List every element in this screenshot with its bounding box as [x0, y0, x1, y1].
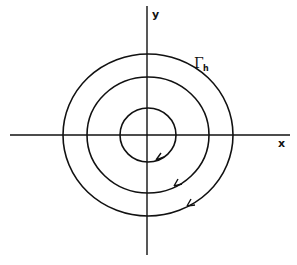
gamma-subscript: h — [203, 64, 209, 73]
y-axis-label: y — [152, 8, 159, 21]
inner-orbit-arrow-icon — [156, 153, 164, 160]
x-axis-label: x — [278, 137, 285, 150]
phase-portrait: y x Γ h — [0, 0, 297, 265]
middle-orbit-arrow-icon — [174, 179, 182, 186]
